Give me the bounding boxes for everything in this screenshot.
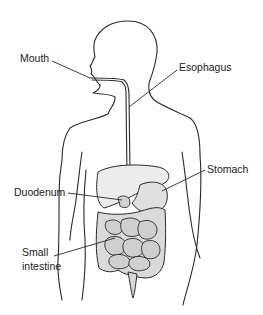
label-mouth: Mouth	[20, 52, 49, 65]
label-esophagus: Esophagus	[179, 61, 232, 74]
mouth-leader-line	[52, 61, 90, 78]
label-small-intestine-line2: intestine	[22, 260, 61, 273]
rectum	[128, 272, 137, 298]
left-torso-lower	[82, 170, 86, 300]
duodenum	[118, 196, 130, 208]
label-small-intestine-line1: Small	[22, 246, 48, 259]
label-duodenum: Duodenum	[14, 186, 65, 199]
face-profile	[90, 21, 200, 155]
label-stomach: Stomach	[207, 163, 248, 176]
esophagus-leader-line	[129, 70, 177, 107]
left-arm-inner	[70, 152, 82, 240]
digestive-system-diagram: Mouth Esophagus Stomach Duodenum Small i…	[0, 0, 263, 315]
